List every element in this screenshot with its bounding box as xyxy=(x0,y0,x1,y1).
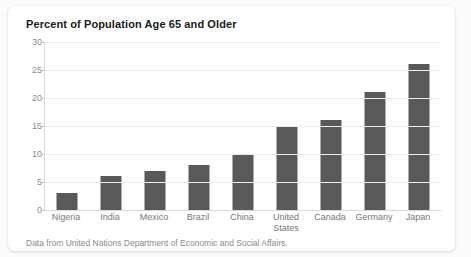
y-axis-tick-label: 25 xyxy=(32,65,42,75)
y-axis-tick-mark xyxy=(42,98,45,99)
bar[interactable] xyxy=(321,120,342,210)
chart-card: Percent of Population Age 65 and Older 0… xyxy=(8,6,455,251)
bar[interactable] xyxy=(57,193,78,210)
gridline xyxy=(45,126,441,127)
x-axis-category-label: China xyxy=(220,212,264,223)
y-axis: 051015202530 xyxy=(8,42,42,210)
y-axis-tick-mark xyxy=(42,70,45,71)
gridline xyxy=(45,98,441,99)
grid-area xyxy=(44,42,441,210)
x-axis-category-label: Nigeria xyxy=(44,212,88,223)
bar[interactable] xyxy=(277,126,298,210)
bar[interactable] xyxy=(145,171,166,210)
x-axis-category-label: Germany xyxy=(352,212,396,223)
gridline xyxy=(45,154,441,155)
gridline xyxy=(45,210,441,211)
y-axis-tick-mark xyxy=(42,126,45,127)
x-axis-category-label: Brazil xyxy=(176,212,220,223)
gridline xyxy=(45,70,441,71)
y-axis-tick-label: 30 xyxy=(32,37,42,47)
gridline xyxy=(45,182,441,183)
bar[interactable] xyxy=(365,92,386,210)
bar[interactable] xyxy=(409,64,430,210)
x-axis-category-label: Japan xyxy=(396,212,440,223)
y-axis-tick-mark xyxy=(42,154,45,155)
y-axis-tick-label: 15 xyxy=(32,121,42,131)
y-axis-tick-mark xyxy=(42,182,45,183)
x-axis-category-label: India xyxy=(88,212,132,223)
x-axis-category-label: United States xyxy=(264,212,308,233)
gridline xyxy=(45,42,441,43)
x-axis: NigeriaIndiaMexicoBrazilChinaUnited Stat… xyxy=(44,212,440,240)
x-axis-category-label: Mexico xyxy=(132,212,176,223)
chart-title: Percent of Population Age 65 and Older xyxy=(26,18,237,30)
bar[interactable] xyxy=(189,165,210,210)
y-axis-tick-mark xyxy=(42,42,45,43)
plot-area: 051015202530 NigeriaIndiaMexicoBrazilChi… xyxy=(8,42,455,222)
x-axis-category-label: Canada xyxy=(308,212,352,223)
y-axis-tick-mark xyxy=(42,210,45,211)
y-axis-tick-label: 10 xyxy=(32,149,42,159)
source-footnote: Data from United Nations Department of E… xyxy=(26,238,288,248)
y-axis-tick-label: 20 xyxy=(32,93,42,103)
